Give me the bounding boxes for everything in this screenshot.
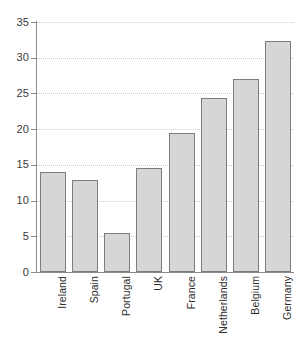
x-tick-label: Portugal <box>117 276 128 316</box>
x-tick-label: Belgium <box>246 276 257 315</box>
x-tick-label-text: Netherlands <box>218 276 229 334</box>
y-tick-label: 25 <box>3 88 29 99</box>
bar-belgium <box>233 79 259 272</box>
y-tick-label: 15 <box>3 159 29 170</box>
bar-france <box>169 133 195 272</box>
y-tick-mark <box>31 272 36 273</box>
y-tick-mark <box>31 129 36 130</box>
x-tick-label: Ireland <box>53 276 64 309</box>
x-tick-label: Spain <box>85 276 96 303</box>
y-tick-mark <box>31 93 36 94</box>
x-tick-label-text: Portugal <box>121 276 132 316</box>
x-tick-label: France <box>182 276 193 309</box>
y-axis-tick-labels: 35 30 25 20 15 10 5 0 <box>0 0 29 355</box>
bar-netherlands <box>201 98 227 272</box>
x-axis-tick-labels: IrelandSpainPortugalUKFranceNetherlandsB… <box>37 276 294 355</box>
y-tick-label: 0 <box>3 267 29 278</box>
y-tick-mark <box>31 236 36 237</box>
bar-germany <box>265 41 291 272</box>
bar-chart: 35 30 25 20 15 10 5 0 IrelandSpainPortug… <box>0 0 305 355</box>
bar-ireland <box>40 172 66 272</box>
y-tick-mark <box>31 201 36 202</box>
x-tick-label-text: UK <box>153 276 164 291</box>
x-tick-label-text: Spain <box>89 276 100 303</box>
y-tick-mark <box>31 165 36 166</box>
y-tick-label: 20 <box>3 124 29 135</box>
x-tick-label: Netherlands <box>214 276 225 334</box>
y-tick-mark <box>31 22 36 23</box>
x-tick-label-text: France <box>186 276 197 309</box>
y-tick-mark <box>31 58 36 59</box>
x-tick-label-text: Belgium <box>250 276 261 315</box>
x-tick-label: Germany <box>278 276 289 320</box>
x-tick-label-text: Germany <box>282 276 293 320</box>
bar-portugal <box>104 233 130 272</box>
y-tick-label: 35 <box>3 17 29 28</box>
bar-uk <box>136 168 162 272</box>
x-tick-label: UK <box>149 276 160 291</box>
bar-spain <box>72 180 98 272</box>
y-tick-label: 10 <box>3 195 29 206</box>
y-tick-label: 5 <box>3 231 29 242</box>
x-tick-label-text: Ireland <box>57 276 68 309</box>
y-tick-label: 30 <box>3 52 29 63</box>
